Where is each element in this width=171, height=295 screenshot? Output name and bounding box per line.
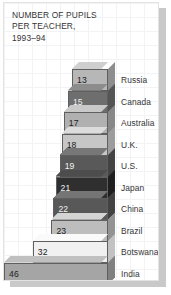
bar-top-face bbox=[62, 127, 108, 134]
bar-top-face bbox=[64, 105, 108, 112]
chart-title: NUMBER OF PUPILS PER TEACHER, 1993–94 bbox=[12, 10, 152, 44]
category-label-botswana: Botswana bbox=[121, 247, 159, 257]
bar-top-face bbox=[33, 234, 108, 241]
category-label-china: China bbox=[121, 204, 143, 214]
bar-top-face bbox=[51, 213, 108, 220]
bar-top-face bbox=[68, 84, 108, 91]
bar-top-face bbox=[4, 256, 108, 263]
bar-top-face bbox=[56, 170, 108, 177]
category-label-japan: Japan bbox=[121, 183, 144, 193]
category-label-canada: Canada bbox=[121, 97, 151, 107]
category-label-uk: U.K. bbox=[121, 140, 138, 150]
chart-figure: NUMBER OF PUPILS PER TEACHER, 1993–94 13… bbox=[0, 0, 171, 295]
category-label-australia: Australia bbox=[121, 118, 154, 128]
chart-card: NUMBER OF PUPILS PER TEACHER, 1993–94 13… bbox=[3, 2, 159, 281]
bar-front-face: 46 bbox=[4, 263, 108, 282]
bar-value-label: 46 bbox=[9, 269, 19, 279]
bar-top-face bbox=[53, 191, 108, 198]
bar-india: 46 bbox=[4, 263, 108, 282]
category-label-india: India bbox=[121, 269, 140, 279]
category-label-russia: Russia bbox=[121, 75, 147, 85]
bar-top-face bbox=[72, 62, 108, 69]
category-label-us: U.S. bbox=[121, 161, 138, 171]
bar-top-face bbox=[60, 148, 108, 155]
plot-area: 13Russia15Canada17Australia18U.K.19U.S.2… bbox=[4, 61, 158, 271]
category-label-brazil: Brazil bbox=[121, 226, 143, 236]
